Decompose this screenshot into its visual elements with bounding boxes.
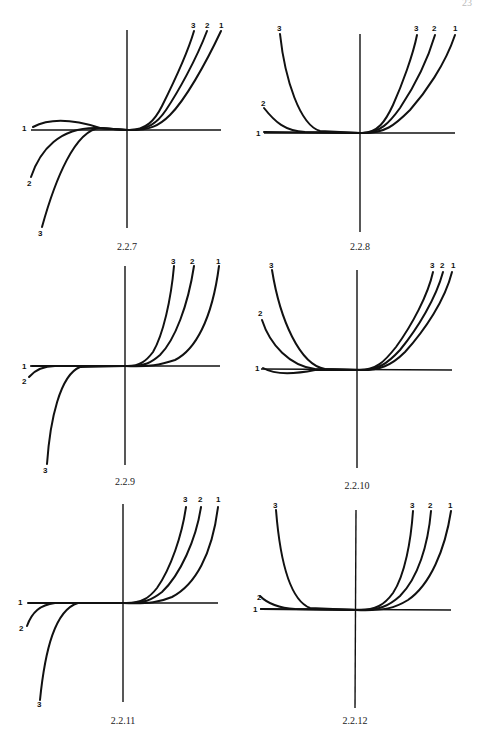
label-curve-2-right: 2 [428, 501, 433, 510]
label-curve-3-right: 3 [183, 495, 188, 504]
label-curve-1-right: 1 [448, 501, 453, 510]
figure-caption: 2.2.9 [115, 476, 135, 487]
label-curve-3-left: 3 [37, 700, 42, 709]
figure-page: 23 1 2 3 3 2 1 2.2.7 1 2 3 3 2 [0, 0, 479, 748]
curve-1-right [360, 35, 455, 133]
figure-2-2-8: 1 2 3 3 2 1 2.2.8 [256, 24, 458, 252]
figure-2-2-11: 1 2 3 3 2 1 2.2.11 [18, 495, 221, 726]
figure-caption: 2.2.10 [345, 480, 370, 491]
label-curve-1-right: 1 [216, 495, 221, 504]
figure-caption: 2.2.11 [111, 715, 136, 726]
curve-3-left [47, 366, 125, 464]
curve-3-right [125, 266, 174, 366]
label-curve-2-right: 2 [440, 261, 445, 270]
label-curve-1-right: 1 [219, 21, 224, 30]
figure-2-2-9: 1 2 3 3 2 1 2.2.9 [22, 257, 221, 487]
label-curve-3-right: 3 [430, 261, 435, 270]
curve-2-left [27, 603, 123, 626]
label-curve-2-right: 2 [432, 24, 437, 33]
curve-3-right [360, 35, 417, 133]
curve-3-left [280, 34, 360, 133]
label-curve-3-right: 3 [191, 21, 196, 30]
label-curve-1-left: 1 [253, 605, 258, 614]
label-curve-3-left: 3 [277, 24, 282, 33]
curve-2-left [31, 128, 127, 177]
label-curve-1-left: 1 [22, 362, 27, 371]
label-curve-2-left: 2 [261, 99, 266, 108]
curve-2-left [264, 108, 360, 133]
curve-2-right [360, 35, 435, 133]
curve-1-right [356, 511, 451, 610]
label-curve-2-left: 2 [19, 624, 24, 633]
label-curve-2-left: 2 [27, 179, 32, 188]
label-curve-2-right: 2 [190, 257, 195, 266]
label-curve-3-left: 3 [43, 466, 48, 475]
label-curve-1-left: 1 [22, 124, 27, 133]
curve-3-left [40, 603, 123, 700]
figure-caption: 2.2.12 [343, 715, 368, 726]
label-curve-3-left: 3 [273, 501, 278, 510]
label-curve-3-left: 3 [38, 229, 43, 238]
curve-3-right [123, 507, 186, 603]
figure-2-2-10: 1 2 3 3 2 1 2.2.10 [255, 261, 456, 491]
label-curve-2-left: 2 [257, 593, 262, 602]
label-curve-1-right: 1 [451, 261, 456, 270]
curve-3-left [42, 128, 127, 227]
label-curve-2-right: 2 [198, 495, 203, 504]
label-curve-1-right: 1 [453, 24, 458, 33]
page-number: 23 [462, 0, 472, 8]
figure-caption: 2.2.8 [350, 241, 370, 252]
label-curve-1-left: 1 [255, 364, 260, 373]
label-curve-2-left: 2 [258, 309, 263, 318]
label-curve-3-right: 3 [410, 501, 415, 510]
label-curve-3-left: 3 [269, 261, 274, 270]
label-curve-2-left: 2 [22, 377, 27, 386]
curve-2-left [262, 320, 357, 370]
figure-2-2-7: 1 2 3 3 2 1 2.2.7 [22, 21, 224, 252]
label-curve-2-right: 2 [205, 21, 210, 30]
label-curve-3-right: 3 [414, 24, 419, 33]
curve-3-right [356, 511, 413, 610]
curve-2-right [123, 507, 201, 603]
label-curve-1-left: 1 [256, 129, 261, 138]
curve-2-right [125, 266, 194, 366]
figure-caption: 2.2.7 [117, 241, 137, 252]
curve-2-right [356, 511, 431, 610]
curve-3-left [276, 510, 356, 610]
curve-1-right [123, 507, 218, 603]
label-curve-3-right: 3 [171, 257, 176, 266]
label-curve-1-left: 1 [18, 598, 23, 607]
label-curve-1-right: 1 [216, 257, 221, 266]
figure-2-2-12: 1 2 3 3 2 1 2.2.12 [253, 501, 453, 726]
